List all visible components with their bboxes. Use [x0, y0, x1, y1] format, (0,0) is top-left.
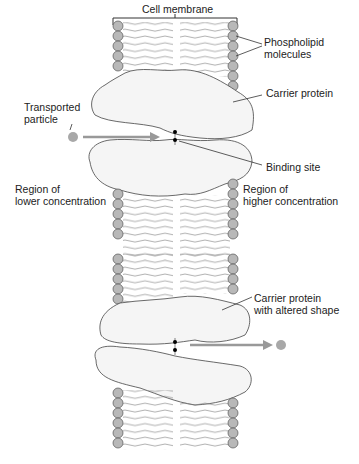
cell-membrane-label: Cell membrane — [142, 3, 213, 15]
bottom-membrane-upper — [123, 254, 230, 304]
phospholipid-label: Phospholipid molecules — [264, 36, 324, 60]
transported-particle-icon — [68, 132, 78, 142]
phospholipid-heads-bottom-lower-left — [113, 388, 123, 448]
phospholipid-pointers — [236, 36, 262, 56]
higher-concentration-label: Region of higher concentration — [243, 183, 338, 207]
phospholipid-heads-top-left — [113, 21, 123, 71]
lower-concentration-label: Region of lower concentration — [15, 183, 106, 207]
transported-particle-label: Transported particle — [24, 101, 80, 125]
carrier-protein-upper — [92, 69, 254, 138]
binding-site-label: Binding site — [266, 161, 320, 173]
phospholipid-heads-bottom-upper-left — [113, 254, 123, 304]
carrier-protein-lower — [89, 139, 252, 196]
top-membrane-upper — [123, 22, 230, 77]
phospholipid-heads-lower-left — [113, 189, 123, 239]
top-membrane-lower — [123, 195, 230, 260]
altered-carrier-protein-upper — [100, 296, 250, 344]
membrane-diagram — [0, 0, 359, 464]
phospholipid-heads-bottom-lower-right — [228, 398, 238, 448]
altered-shape-label: Carrier protein with altered shape — [254, 292, 339, 316]
carrier-protein-label: Carrier protein — [266, 87, 333, 99]
released-particle-icon — [276, 340, 286, 350]
